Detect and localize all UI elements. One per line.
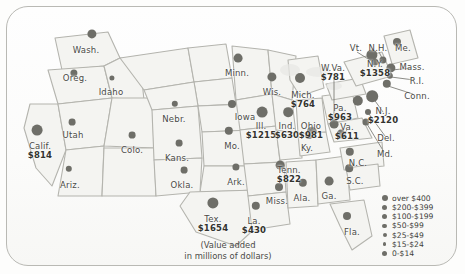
state-label: Ala. [294, 194, 311, 203]
legend-label: $25-$49 [392, 231, 424, 240]
state-dot [176, 140, 183, 147]
state-name: Kans. [165, 154, 189, 163]
state-name: Wis. [263, 88, 282, 97]
state-name: S.C. [346, 177, 364, 186]
state-label: Nebr. [162, 115, 185, 124]
state-label: W.Va.$781 [321, 64, 345, 82]
legend-dot [382, 195, 388, 201]
legend-dot [382, 251, 387, 256]
state-name: Del. [377, 134, 395, 143]
state-value: $2120 [368, 116, 399, 125]
legend-label: $100-$199 [392, 212, 433, 221]
state-value: $781 [321, 73, 345, 82]
legend-row: 0-$14 [381, 249, 453, 258]
legend-dot-cell [381, 214, 392, 220]
state-name: Miss. [266, 197, 288, 206]
legend-row: $25-$49 [381, 230, 453, 239]
state-label: Mo. [224, 142, 240, 151]
state-label: Ill.$1215 [246, 122, 277, 140]
legend-label: $200-$399 [392, 203, 433, 212]
state-label: Calif.$814 [28, 142, 52, 160]
state-label: Md. [377, 150, 393, 159]
map-caption: (Value added in millions of dollars) [184, 240, 271, 262]
map-canvas: Wash.Oreg.IdahoCalif.$814UtahAriz.Colo.N… [0, 0, 465, 274]
state-value: $963 [328, 113, 352, 122]
legend-row: $100-$199 [381, 212, 453, 221]
state-name: Vt. [350, 44, 362, 53]
state-name: Iowa [235, 113, 256, 122]
legend-dot [383, 233, 387, 237]
state-name: Okla. [171, 181, 194, 190]
state-label: Miss. [266, 197, 288, 206]
state-value: $1654 [198, 224, 229, 233]
state-label: Oreg. [63, 74, 87, 83]
state-name: Ga. [321, 192, 336, 201]
state-label: N.J.$2120 [368, 107, 399, 125]
state-name: Utah [63, 131, 84, 140]
state-name: Wash. [73, 46, 100, 55]
state-name: Me. [395, 44, 411, 53]
state-label: R.I. [410, 77, 424, 86]
state-dot [181, 167, 188, 174]
state-label: Okla. [171, 181, 194, 190]
state-label: Utah [63, 131, 84, 140]
state-dot [32, 125, 43, 136]
state-label: Iowa [235, 113, 256, 122]
legend-label: $15-$24 [392, 240, 424, 249]
legend-dot-cell [381, 242, 392, 246]
legend-dot-cell [381, 224, 392, 228]
legend-label: $50-$99 [392, 221, 424, 230]
state-value: $611 [335, 132, 359, 141]
state-label: Me. [395, 44, 411, 53]
caption-line-2: in millions of dollars) [184, 251, 271, 261]
state-label: N.Y.$1358 [360, 60, 391, 78]
state-label: Ariz. [60, 181, 80, 190]
state-name: Idaho [99, 88, 124, 97]
state-name: R.I. [410, 77, 424, 86]
state-value: $981 [299, 131, 323, 140]
state-dot [295, 73, 305, 83]
state-label: Del. [377, 134, 395, 143]
state-name: Minn. [225, 69, 249, 78]
state-label: N.H. [369, 44, 388, 53]
state-name: Fla. [344, 228, 360, 237]
state-name: Mo. [224, 142, 240, 151]
state-dot [275, 183, 283, 191]
legend-label: 0-$14 [392, 249, 414, 258]
state-dot [325, 177, 334, 186]
state-dot [228, 100, 236, 108]
state-value: $430 [242, 226, 266, 235]
state-label: Kans. [165, 154, 189, 163]
legend-dot-cell [381, 251, 392, 256]
state-label: S.C. [346, 177, 364, 186]
state-name: N.H. [369, 44, 388, 53]
legend-row: $200-$399 [381, 203, 453, 212]
state-name: Md. [377, 150, 393, 159]
page-root: Wash.Oreg.IdahoCalif.$814UtahAriz.Colo.N… [0, 0, 465, 274]
state-label: Va.$611 [335, 123, 359, 141]
state-name: Colo. [121, 146, 143, 155]
state-value: $630 [275, 131, 299, 140]
state-label: Fla. [344, 228, 360, 237]
legend-label: over $400 [392, 194, 431, 203]
state-label: Mich.$764 [291, 91, 315, 109]
state-name: Ala. [294, 194, 311, 203]
legend-dot [382, 224, 386, 228]
state-label: Vt. [350, 44, 362, 53]
state-label: Ohio$981 [299, 122, 323, 140]
state-label: Ind.$630 [275, 122, 299, 140]
state-name: Mass. [399, 63, 424, 72]
state-dot [129, 132, 136, 139]
state-dot [366, 90, 378, 102]
state-label: Minn. [225, 69, 249, 78]
legend-dot-cell [381, 205, 392, 210]
legend-dot [382, 214, 388, 220]
state-name: Conn. [404, 92, 430, 101]
state-label: Ga. [321, 192, 336, 201]
state-name: Nebr. [162, 115, 185, 124]
state-value: $814 [28, 151, 52, 160]
state-label: Colo. [121, 146, 143, 155]
state-label: Conn. [404, 92, 430, 101]
state-value: $764 [291, 100, 315, 109]
state-label: Idaho [99, 88, 124, 97]
